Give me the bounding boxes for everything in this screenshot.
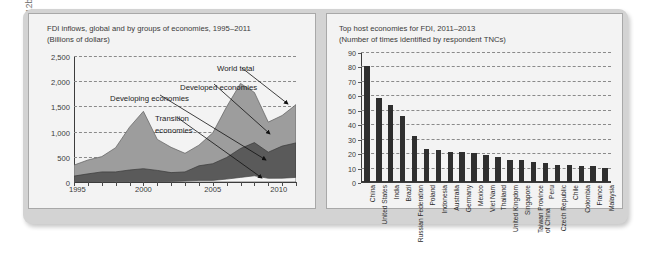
bar-label-australia: Australia bbox=[453, 185, 460, 211]
right-gridline-80: 80 bbox=[361, 66, 611, 67]
bar-label-france: France bbox=[596, 185, 603, 206]
left-xtick-2010: 2010 bbox=[270, 185, 287, 194]
bar-label-chile: Chile bbox=[572, 185, 579, 200]
left-xtick-2000: 2000 bbox=[135, 185, 152, 194]
bar-label-poland: Poland bbox=[429, 185, 436, 206]
right-ytickmark-90 bbox=[358, 53, 361, 54]
right-gridline-30: 30 bbox=[361, 139, 611, 140]
right-ytick-80: 80 bbox=[348, 63, 356, 72]
bar-label-russian-federation: Russian Federation bbox=[417, 185, 424, 242]
left-ytick-1000: 1,000 bbox=[51, 128, 70, 137]
bar-russian-federation bbox=[412, 136, 417, 182]
bar-peru bbox=[543, 163, 548, 182]
right-ytickmark-0 bbox=[358, 183, 361, 184]
bar-australia bbox=[448, 152, 453, 182]
left-chart-title-line2: (Billions of dollars) bbox=[47, 35, 110, 44]
right-y-axis bbox=[361, 52, 362, 182]
bar-label-malaysia: Malaysia bbox=[608, 185, 615, 211]
bar-taiwan-province-of-china bbox=[531, 162, 536, 182]
right-gridline-50: 50 bbox=[361, 110, 611, 111]
bar-china bbox=[364, 66, 369, 182]
left-xtick-2005: 2005 bbox=[204, 185, 221, 194]
left-ytick-2500: 2,500 bbox=[51, 53, 70, 62]
left-ytick-2000: 2,000 bbox=[51, 78, 70, 87]
bar-france bbox=[590, 166, 595, 182]
bar-label-czech-republic: Czech Republic bbox=[560, 185, 567, 231]
right-chart-title-line2: (Number of times identified by responden… bbox=[339, 35, 506, 44]
bar-label-india: India bbox=[393, 185, 400, 199]
bar-label-china: China bbox=[369, 185, 376, 202]
right-chart-title-line1: Top host economies for FDI, 2011–2013 bbox=[339, 24, 475, 33]
right-ytickmark-80 bbox=[358, 67, 361, 68]
bar-mexico bbox=[471, 153, 476, 182]
bar-label-indonesia: Indonesia bbox=[441, 185, 448, 214]
bar-poland bbox=[424, 149, 429, 182]
figure-container: Source: World Investment Report, 2011, 2… bbox=[0, 0, 645, 254]
right-ytickmark-50 bbox=[358, 111, 361, 112]
right-ytick-90: 90 bbox=[348, 49, 356, 58]
label-developed-economies: Developed economies bbox=[180, 83, 257, 92]
bar-label-united-kingdom: United Kingdom bbox=[512, 185, 519, 232]
right-ytick-20: 20 bbox=[348, 150, 356, 159]
right-gridline-40: 40 bbox=[361, 124, 611, 125]
right-gridline-90: 90 bbox=[361, 52, 611, 53]
right-ytick-40: 40 bbox=[348, 121, 356, 130]
left-ytick-1500: 1,500 bbox=[51, 103, 70, 112]
right-ytickmark-30 bbox=[358, 140, 361, 141]
right-gridline-0: 0 bbox=[361, 182, 611, 183]
bar-label-brazil: Brazil bbox=[405, 185, 412, 202]
bar-label-mexico: Mexico bbox=[477, 185, 484, 206]
bar-india bbox=[388, 105, 393, 182]
bar-czech-republic bbox=[555, 165, 560, 182]
right-ytickmark-40 bbox=[358, 125, 361, 126]
right-ytickmark-60 bbox=[358, 96, 361, 97]
bar-label-viet-nam: Viet Nam bbox=[489, 185, 496, 212]
bar-viet-nam bbox=[483, 155, 488, 182]
bar-united-states bbox=[376, 98, 381, 182]
bar-label-colombia: Colombia bbox=[584, 185, 591, 213]
bar-indonesia bbox=[436, 150, 441, 182]
bar-label-peru: Peru bbox=[548, 185, 555, 199]
left-chart-card: FDI inflows, global and by groups of eco… bbox=[28, 13, 316, 209]
bar-brazil bbox=[400, 116, 405, 182]
bar-chile bbox=[567, 165, 572, 182]
bar-label-germany: Germany bbox=[465, 185, 472, 212]
left-chart-title-line1: FDI inflows, global and by groups of eco… bbox=[47, 24, 251, 33]
bar-malaysia bbox=[602, 168, 607, 182]
right-chart-title: Top host economies for FDI, 2011–2013(Nu… bbox=[339, 23, 614, 45]
right-ytick-10: 10 bbox=[348, 164, 356, 173]
right-ytick-60: 60 bbox=[348, 92, 356, 101]
bar-germany bbox=[459, 152, 464, 182]
right-ytickmark-20 bbox=[358, 154, 361, 155]
right-chart-plot: 0102030405060708090 ChinaUnited StatesIn… bbox=[361, 52, 611, 182]
label-transition-economies-line1: Transition bbox=[155, 114, 189, 123]
right-chart-card: Top host economies for FDI, 2011–2013(Nu… bbox=[326, 13, 623, 209]
label-transition-economies-line2: economies bbox=[155, 126, 193, 135]
right-gridline-70: 70 bbox=[361, 81, 611, 82]
label-developing-economies: Developing economies bbox=[110, 94, 189, 103]
right-ytick-0: 0 bbox=[352, 179, 356, 188]
bar-united-kingdom bbox=[507, 160, 512, 182]
left-chart-title: FDI inflows, global and by groups of eco… bbox=[47, 23, 307, 45]
bar-thailand bbox=[495, 157, 500, 182]
label-world-total: World total bbox=[217, 64, 254, 73]
right-ytickmark-10 bbox=[358, 169, 361, 170]
bar-label-thailand: Thailand bbox=[500, 185, 507, 210]
left-ytick-500: 500 bbox=[57, 153, 70, 162]
charts-area: FDI inflows, global and by groups of eco… bbox=[28, 13, 623, 220]
right-ytick-30: 30 bbox=[348, 135, 356, 144]
right-ytickmark-70 bbox=[358, 82, 361, 83]
right-gridline-60: 60 bbox=[361, 95, 611, 96]
right-ytick-50: 50 bbox=[348, 106, 356, 115]
bar-colombia bbox=[579, 166, 584, 182]
bar-label-singapore: Singapore bbox=[524, 185, 531, 215]
right-ytick-70: 70 bbox=[348, 77, 356, 86]
bar-singapore bbox=[519, 160, 524, 182]
left-xtick-1995: 1995 bbox=[69, 185, 86, 194]
bar-label-united-states: United States bbox=[381, 185, 388, 225]
